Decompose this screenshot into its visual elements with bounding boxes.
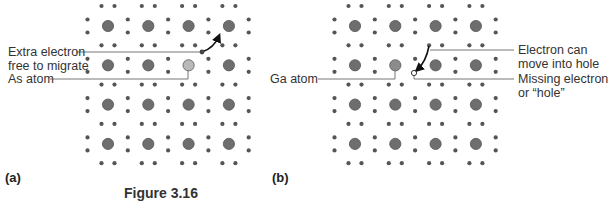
silicon-atom <box>223 138 234 149</box>
electron-to-hole-arrow <box>417 46 429 70</box>
hole-leader-line <box>414 76 514 79</box>
bond-electron <box>180 4 184 8</box>
bond-electron <box>467 43 471 47</box>
figure-caption: Figure 3.16 <box>124 185 198 201</box>
label-extra-electron-line2: free to migrate <box>8 59 89 73</box>
bond-electron <box>440 161 444 165</box>
bond-electron <box>413 109 417 113</box>
bond-electron <box>85 17 89 21</box>
bond-electron <box>400 4 404 8</box>
bond-electron <box>126 135 130 139</box>
bond-electron <box>400 122 404 126</box>
silicon-atom <box>430 60 441 71</box>
bond-electron <box>247 17 251 21</box>
bond-electron <box>400 83 404 87</box>
bond-electron <box>440 122 444 126</box>
bond-electron <box>112 122 116 126</box>
bond-electron <box>413 57 417 61</box>
silicon-atom <box>183 99 194 110</box>
bond-electron <box>480 161 484 165</box>
bond-electron <box>494 109 498 113</box>
bond-electron <box>332 148 336 152</box>
bond-electron <box>400 43 404 47</box>
bond-electron <box>166 70 170 74</box>
bond-electron <box>453 109 457 113</box>
bond-electron <box>140 161 144 165</box>
panel-label-b: (b) <box>272 170 289 185</box>
bond-electron <box>332 30 336 34</box>
electron-migration-arrow <box>202 36 219 52</box>
silicon-atom <box>470 99 481 110</box>
label-ga-atom: Ga atom <box>270 72 318 86</box>
bond-electron <box>220 4 224 8</box>
bond-electron <box>413 17 417 21</box>
bond-electron <box>233 83 237 87</box>
bond-electron <box>233 43 237 47</box>
bond-electron <box>112 161 116 165</box>
bond-electron <box>85 96 89 100</box>
bond-electron <box>387 4 391 8</box>
bond-electron <box>85 30 89 34</box>
extra-electron <box>200 50 205 55</box>
panel-b-annotations <box>318 46 514 79</box>
silicon-atom <box>223 60 234 71</box>
bond-electron <box>346 161 350 165</box>
bond-electron <box>153 122 157 126</box>
bond-electron <box>220 83 224 87</box>
silicon-atom <box>102 20 113 31</box>
bond-electron <box>206 148 210 152</box>
silicon-atom <box>470 60 481 71</box>
bond-electron <box>427 122 431 126</box>
panel-label-a: (a) <box>5 170 21 185</box>
bond-electron <box>166 109 170 113</box>
bond-electron <box>467 83 471 87</box>
silicon-atom <box>102 138 113 149</box>
bond-electron <box>206 30 210 34</box>
silicon-atom <box>102 99 113 110</box>
bond-electron <box>247 135 251 139</box>
bond-electron <box>480 83 484 87</box>
bond-electron <box>180 122 184 126</box>
bond-electron <box>233 122 237 126</box>
bond-electron <box>373 135 377 139</box>
bond-electron <box>467 161 471 165</box>
silicon-atom <box>223 99 234 110</box>
label-hole-line2: or “hole” <box>518 86 608 100</box>
label-as-atom: As atom <box>8 72 54 86</box>
bond-electron <box>247 109 251 113</box>
bond-electron <box>153 43 157 47</box>
bond-electron <box>373 96 377 100</box>
bond-electron <box>453 70 457 74</box>
bond-electron <box>112 83 116 87</box>
bond-electron <box>373 109 377 113</box>
bond-electron <box>206 135 210 139</box>
bond-electron <box>247 148 251 152</box>
bond-electron <box>85 135 89 139</box>
label-extra-electron-line1: Extra electron <box>8 45 89 59</box>
bond-electron <box>220 43 224 47</box>
silicon-atom <box>349 60 360 71</box>
lattice-panel-b <box>332 4 497 165</box>
bond-electron <box>166 17 170 21</box>
bond-electron <box>494 148 498 152</box>
bond-electron <box>126 70 130 74</box>
bond-electron <box>126 57 130 61</box>
bond-electron <box>233 161 237 165</box>
bond-electron <box>99 43 103 47</box>
bond-electron <box>206 17 210 21</box>
bond-electron <box>206 70 210 74</box>
silicon-atom <box>143 60 154 71</box>
bond-electron <box>166 96 170 100</box>
silicon-atom <box>430 138 441 149</box>
bond-electron <box>247 57 251 61</box>
silicon-atom <box>143 99 154 110</box>
bond-electron <box>413 30 417 34</box>
bond-electron <box>332 135 336 139</box>
bond-electron <box>180 43 184 47</box>
bond-electron <box>166 57 170 61</box>
bond-electron <box>387 83 391 87</box>
bond-electron <box>126 148 130 152</box>
bond-electron <box>427 4 431 8</box>
bond-electron <box>166 30 170 34</box>
bond-electron <box>440 83 444 87</box>
